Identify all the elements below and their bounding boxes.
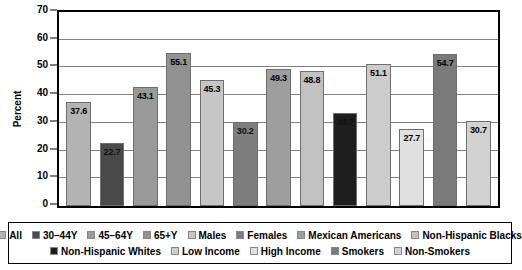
legend-swatch-icon — [188, 231, 196, 239]
legend-swatch-icon — [394, 247, 402, 255]
bar-series: 37.622.743.155.145.330.249.348.833.751.1… — [59, 12, 498, 206]
legend-item[interactable]: 65+Y — [143, 230, 178, 241]
legend-item[interactable]: Mexican Americans — [297, 230, 401, 241]
bar-slot: 30.7 — [462, 12, 495, 206]
legend-item[interactable]: Smokers — [331, 246, 384, 257]
legend-swatch-icon — [87, 231, 95, 239]
y-axis: 010203040506070 — [0, 0, 57, 218]
bar[interactable]: 22.7 — [100, 143, 125, 206]
legend-swatch-icon — [331, 247, 339, 255]
legend-swatch-icon — [171, 247, 179, 255]
bar-value-label: 55.1 — [170, 57, 187, 67]
y-axis-tick-label: 40 — [37, 88, 48, 98]
bar-value-label: 33.7 — [337, 117, 354, 127]
bar-value-label: 43.1 — [137, 91, 154, 101]
bar-slot: 30.2 — [229, 12, 262, 206]
legend-item[interactable]: Low Income — [171, 246, 240, 257]
bar-value-label: 22.7 — [104, 147, 121, 157]
y-axis-tick-label: 50 — [37, 60, 48, 70]
bar-slot: 49.3 — [262, 12, 295, 206]
bar-slot: 45.3 — [195, 12, 228, 206]
y-axis-tick-mark — [50, 204, 57, 205]
legend-item[interactable]: Non-Hispanic Whites — [50, 246, 161, 257]
bar-value-label: 37.6 — [70, 106, 87, 116]
y-axis-tick-mark — [50, 120, 57, 121]
bar-value-label: 48.8 — [303, 75, 320, 85]
y-axis-tick-label: 0 — [42, 199, 48, 209]
legend-swatch-icon — [50, 247, 58, 255]
legend-item[interactable]: Females — [236, 230, 287, 241]
legend-label: Males — [199, 230, 227, 241]
y-axis-tick-label: 60 — [37, 33, 48, 43]
bar[interactable]: 30.7 — [466, 121, 491, 206]
bar[interactable]: 27.7 — [399, 129, 424, 206]
chart-legend: All30–44Y45–64Y65+YMalesFemalesMexican A… — [8, 222, 512, 264]
bar-slot: 54.7 — [428, 12, 461, 206]
bar-slot: 48.8 — [295, 12, 328, 206]
bar-slot: 43.1 — [129, 12, 162, 206]
legend-swatch-icon — [32, 231, 40, 239]
bar-value-label: 51.1 — [370, 68, 387, 78]
y-axis-tick-mark — [50, 65, 57, 66]
bar[interactable]: 30.2 — [233, 122, 258, 206]
legend-label: Smokers — [342, 246, 384, 257]
y-axis-tick-mark — [50, 148, 57, 149]
bar[interactable]: 55.1 — [166, 53, 191, 206]
legend-item[interactable]: 30–44Y — [32, 230, 77, 241]
legend-item[interactable]: All — [0, 230, 22, 241]
bar[interactable]: 49.3 — [266, 69, 291, 206]
bar[interactable]: 51.1 — [366, 64, 391, 206]
y-axis-tick-mark — [50, 37, 57, 38]
legend-label: Mexican Americans — [308, 230, 401, 241]
y-axis-tick-mark — [50, 93, 57, 94]
legend-swatch-icon — [250, 247, 258, 255]
legend-label: All — [9, 230, 22, 241]
bar[interactable]: 37.6 — [66, 102, 91, 206]
bar-value-label: 30.2 — [237, 126, 254, 136]
legend-label: Low Income — [182, 246, 240, 257]
legend-swatch-icon — [0, 231, 6, 239]
bar[interactable]: 54.7 — [433, 54, 458, 206]
bar-slot: 27.7 — [395, 12, 428, 206]
legend-item[interactable]: Non-Smokers — [394, 246, 470, 257]
y-axis-tick-label: 20 — [37, 144, 48, 154]
legend-label: High Income — [261, 246, 321, 257]
bar-value-label: 49.3 — [270, 73, 287, 83]
legend-label: 45–64Y — [98, 230, 132, 241]
y-axis-tick-label: 10 — [37, 171, 48, 181]
bar-value-label: 54.7 — [437, 58, 454, 68]
bar[interactable]: 45.3 — [200, 80, 225, 206]
legend-item[interactable]: 45–64Y — [87, 230, 132, 241]
bar[interactable]: 33.7 — [333, 113, 358, 206]
bar-slot: 51.1 — [362, 12, 395, 206]
bar-slot: 22.7 — [95, 12, 128, 206]
plot-area: 37.622.743.155.145.330.249.348.833.751.1… — [57, 10, 500, 208]
legend-swatch-icon — [236, 231, 244, 239]
bar-slot: 55.1 — [162, 12, 195, 206]
legend-swatch-icon — [297, 231, 305, 239]
legend-item[interactable]: Males — [188, 230, 227, 241]
bar-value-label: 30.7 — [470, 125, 487, 135]
legend-label: 65+Y — [154, 230, 178, 241]
bar-value-label: 27.7 — [403, 133, 420, 143]
legend-item[interactable]: High Income — [250, 246, 321, 257]
legend-label: Females — [247, 230, 287, 241]
bar-value-label: 45.3 — [204, 84, 221, 94]
legend-swatch-icon — [143, 231, 151, 239]
legend-label: Non-Smokers — [405, 246, 470, 257]
legend-item[interactable]: Non-Hispanic Blacks — [411, 230, 521, 241]
y-axis-tick-label: 70 — [37, 5, 48, 15]
legend-label: Non-Hispanic Blacks — [422, 230, 521, 241]
legend-row: All30–44Y45–64Y65+YMalesFemalesMexican A… — [13, 227, 507, 243]
bar-slot: 33.7 — [329, 12, 362, 206]
bar[interactable]: 48.8 — [300, 71, 325, 206]
legend-row: Non-Hispanic WhitesLow IncomeHigh Income… — [13, 243, 507, 259]
y-axis-tick-label: 30 — [37, 116, 48, 126]
legend-label: 30–44Y — [43, 230, 77, 241]
y-axis-tick-mark — [50, 176, 57, 177]
legend-label: Non-Hispanic Whites — [61, 246, 161, 257]
bar-slot: 37.6 — [62, 12, 95, 206]
bar[interactable]: 43.1 — [133, 87, 158, 206]
y-axis-tick-mark — [50, 10, 57, 11]
